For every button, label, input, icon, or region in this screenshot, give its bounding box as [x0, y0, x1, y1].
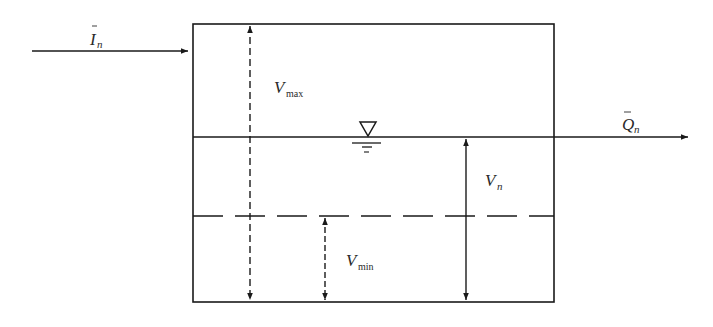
vn-label: V n [485, 171, 503, 192]
outflow-label: Q n [622, 112, 640, 135]
svg-text:I: I [89, 30, 97, 49]
svg-text:max: max [286, 88, 303, 99]
vmin-label: V min [346, 251, 374, 272]
svg-text:Q: Q [622, 115, 634, 134]
reservoir-diagram: I n Q n V max V n V min [0, 0, 713, 327]
inflow-label: I n [89, 26, 103, 50]
vmax-label: V max [274, 78, 303, 99]
svg-text:min: min [358, 261, 374, 272]
svg-text:n: n [634, 123, 640, 135]
svg-text:n: n [497, 180, 503, 192]
svg-text:n: n [97, 38, 103, 50]
